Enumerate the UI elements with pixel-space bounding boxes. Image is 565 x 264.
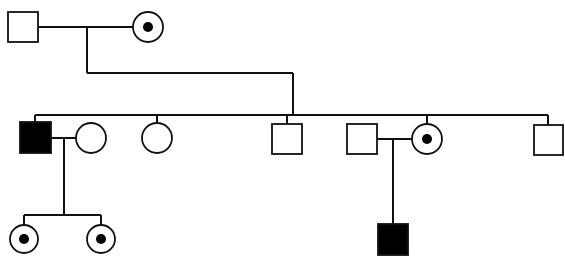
individual-II-7-male (534, 125, 563, 155)
individual-III-3-male-affected (378, 224, 408, 255)
individual-II-3-female (142, 123, 172, 153)
pedigree-diagram (0, 0, 565, 264)
individual-I-1-male (8, 12, 38, 42)
individual-II-2-female (76, 123, 106, 153)
individual-II-1-male-affected (20, 122, 51, 153)
carrier-dot-icon (143, 22, 153, 32)
individual-II-5-male (347, 124, 377, 154)
individual-II-4-male (272, 124, 302, 154)
carrier-dot-icon (96, 234, 106, 244)
carrier-dot-icon (422, 134, 432, 144)
carrier-dot-icon (19, 234, 29, 244)
